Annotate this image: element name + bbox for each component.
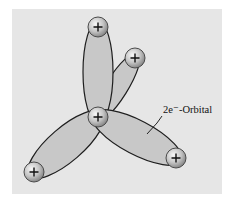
orbital-diagram: 2e⁻-Orbital [0,0,234,200]
nucleus-bottom-left [24,162,44,182]
nucleus-central [88,107,108,127]
orbital-label: 2e⁻-Orbital [163,104,212,115]
nucleus-top [88,17,108,37]
nucleus-upper-right [125,48,145,68]
nucleus-bottom-right [166,148,186,168]
